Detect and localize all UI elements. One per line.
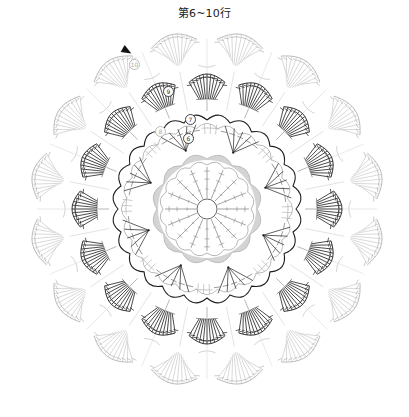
row-number-label-9: 9	[163, 86, 174, 97]
row-number-label-10: 10	[129, 59, 140, 70]
center-ring	[197, 199, 217, 219]
row-number-label-8: 8	[155, 126, 166, 137]
rows-1-5-center	[153, 155, 260, 262]
row-number-label-6: 6	[183, 133, 194, 144]
row-number-label-7: 7	[185, 114, 196, 125]
crochet-chart-diagram	[0, 0, 409, 417]
